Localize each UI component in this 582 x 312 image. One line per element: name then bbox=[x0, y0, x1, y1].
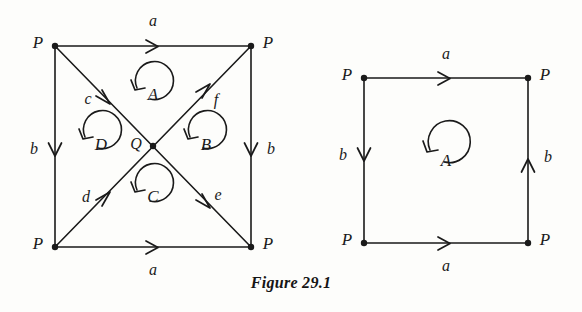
right-vertex-dot-top-left bbox=[361, 75, 367, 81]
left-vertex-label-bottom-right: P bbox=[262, 234, 273, 253]
left-region-label-a: A bbox=[147, 85, 159, 104]
left-vertex-label-top-right: P bbox=[262, 33, 273, 52]
left-vertex-label-bottom-left: P bbox=[32, 234, 43, 253]
right-edge-label-top-a: a bbox=[442, 45, 450, 62]
right-edge-label-right-b: b bbox=[544, 148, 552, 165]
right-vertex-dot-bottom-left bbox=[361, 240, 367, 246]
right-vertex-label-top-right: P bbox=[539, 65, 550, 84]
left-edge-label-left-b: b bbox=[30, 140, 38, 157]
figure-caption: Figure 29.1 bbox=[0, 274, 582, 292]
left-region-label-b: B bbox=[201, 135, 212, 154]
left-center-label-q: Q bbox=[130, 135, 142, 152]
right-edge-label-left-b: b bbox=[339, 146, 347, 163]
left-diagonal-label-f: f bbox=[214, 91, 221, 109]
left-edge-label-right-b: b bbox=[267, 140, 275, 157]
right-diagram: P P P P a a b b A bbox=[339, 45, 552, 274]
left-diagonal-label-e: e bbox=[214, 186, 221, 203]
figure-29-1: P P P P Q a a b b c f d e A B C D bbox=[0, 0, 582, 312]
right-vertex-dot-bottom-right bbox=[525, 240, 531, 246]
left-edge-label-top-a: a bbox=[149, 12, 157, 29]
left-arrowhead-diag-e bbox=[196, 194, 210, 208]
left-vertex-dot-bottom-left bbox=[52, 244, 58, 250]
left-vertex-dot-center-q bbox=[150, 143, 156, 149]
left-vertex-dot-top-right bbox=[248, 43, 254, 49]
left-vertex-label-top-left: P bbox=[32, 33, 43, 52]
left-region-label-d: D bbox=[94, 135, 108, 154]
right-vertex-label-bottom-right: P bbox=[539, 230, 550, 249]
left-vertex-dot-top-left bbox=[52, 43, 58, 49]
right-vertex-dot-top-right bbox=[525, 75, 531, 81]
right-vertex-label-bottom-left: P bbox=[341, 230, 352, 249]
right-edge-label-bottom-a: a bbox=[442, 257, 450, 274]
right-region-label-a: A bbox=[440, 151, 452, 170]
figure-canvas: P P P P Q a a b b c f d e A B C D bbox=[0, 0, 582, 312]
left-vertex-dot-bottom-right bbox=[248, 244, 254, 250]
left-diagonal-label-d: d bbox=[82, 188, 91, 205]
left-arrowhead-diag-c bbox=[96, 90, 110, 104]
left-region-label-c: C bbox=[147, 187, 159, 206]
left-diagram: P P P P Q a a b b c f d e A B C D bbox=[30, 12, 275, 278]
right-vertex-label-top-left: P bbox=[341, 65, 352, 84]
left-diagonal-label-c: c bbox=[84, 90, 91, 107]
